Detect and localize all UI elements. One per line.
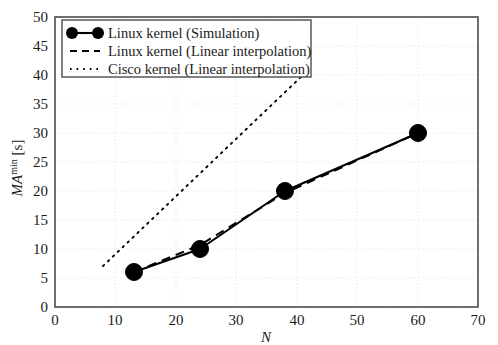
legend-swatch-marker-right [92,27,104,39]
data-point-marker [126,264,143,281]
x-tick-label: 20 [169,312,184,328]
y-tick-label: 30 [33,125,48,141]
y-tick-label: 20 [33,183,48,199]
y-tick-label: 15 [33,212,48,228]
y-tick-label: 35 [33,96,48,112]
x-tick-label: 50 [350,312,365,328]
data-point-marker [410,125,427,142]
legend-label: Linux kernel (Simulation) [108,25,260,42]
x-tick-label: 10 [108,312,123,328]
x-tick-label: 70 [471,312,486,328]
chart-legend: Linux kernel (Simulation) Linux kernel (… [62,20,311,78]
legend-label: Cisco kernel (Linear interpolation) [108,61,310,78]
x-tick-label: 0 [51,312,59,328]
y-tick-label: 5 [41,270,49,286]
y-tick-label: 45 [33,38,48,54]
y-tick-label: 10 [33,241,48,257]
legend-swatch-marker-left [66,27,78,39]
x-axis-title: N [260,329,272,345]
legend-label: Linux kernel (Linear interpolation) [108,43,311,60]
y-tick-label: 40 [33,67,48,83]
y-axis-title-base: MA [9,174,25,197]
data-point-marker [192,241,209,258]
y-tick-label: 50 [33,9,48,25]
y-axis-title-unit-text: [s] [9,140,25,156]
data-point-marker [277,183,294,200]
chart-figure: 0 5 10 15 20 25 30 35 40 45 50 0 10 20 3… [0,0,498,345]
y-tick-label: 25 [33,154,48,170]
x-tick-label: 60 [411,312,426,328]
x-tick-label: 40 [290,312,305,328]
chart-svg: 0 5 10 15 20 25 30 35 40 45 50 0 10 20 3… [0,0,498,345]
x-tick-label: 30 [229,312,244,328]
y-tick-label: 0 [41,299,49,315]
y-axis-title-superscript: min [8,159,19,175]
